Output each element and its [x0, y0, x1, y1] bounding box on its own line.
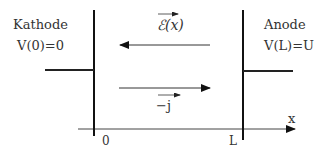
field-label: ℰ(x)	[157, 17, 184, 33]
cathode-potential: V(0)=0	[16, 38, 64, 53]
axis-label-x: x	[288, 111, 296, 126]
current-label: −j	[156, 98, 171, 113]
anode-potential: V(L)=U	[263, 38, 314, 53]
diode-diagram: ℰ(x) −j Kathode V(0)=0 Anode V(L)=U 0 L …	[0, 0, 324, 157]
tick-0: 0	[102, 134, 110, 148]
tick-L: L	[229, 134, 237, 148]
cathode-title: Kathode	[13, 17, 68, 32]
anode-title: Anode	[263, 17, 306, 32]
